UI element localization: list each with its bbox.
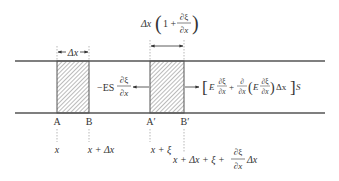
rod-diagram: Δx Δx ( 1 + ∂ξ ∂x ) −ES ∂ξ ∂x [ E ∂ξ ∂x … [0, 0, 339, 181]
svg-text:S: S [296, 82, 301, 92]
displaced-element-hatched [150, 61, 184, 113]
position-A: x [54, 144, 60, 155]
svg-text:∂ξ: ∂ξ [218, 77, 226, 86]
point-Aprime-label: A′ [146, 116, 155, 127]
svg-text:∂x: ∂x [120, 88, 128, 98]
point-Bprime-label: B′ [181, 116, 190, 127]
original-element-hatched [57, 61, 89, 113]
svg-text:∂ξ: ∂ξ [261, 77, 269, 86]
svg-text:+: + [229, 82, 234, 92]
left-force-label: −ES ∂ξ ∂x [97, 75, 131, 98]
svg-text:∂x: ∂x [261, 87, 269, 96]
svg-text:]: ] [290, 78, 296, 97]
point-B-label: B [86, 116, 93, 127]
svg-text:∂ξ: ∂ξ [180, 12, 188, 22]
svg-text:Δx: Δx [140, 18, 152, 29]
svg-text:∂x: ∂x [234, 161, 242, 171]
svg-text:): ) [270, 80, 275, 96]
svg-text:∂ξ: ∂ξ [234, 147, 242, 157]
position-Bprime: x + Δx + ξ + ∂ξ ∂x Δx [172, 147, 258, 171]
position-Aprime: x + ξ [150, 144, 172, 156]
svg-text:E: E [208, 82, 215, 92]
svg-text:(: ( [155, 12, 162, 35]
right-force-label: [ E ∂ξ ∂x + ∂ ∂x ( E ∂ξ ∂x ) Δx ] S [202, 77, 301, 97]
svg-text:∂x: ∂x [238, 87, 246, 96]
svg-text:−ES: −ES [97, 82, 114, 93]
svg-text:∂x: ∂x [218, 87, 226, 96]
svg-text:∂: ∂ [240, 77, 244, 86]
point-A-label: A [53, 116, 61, 127]
original-width-label: Δx [67, 47, 79, 58]
svg-text:Δx: Δx [276, 82, 287, 92]
svg-text:x + Δx + ξ +: x + Δx + ξ + [172, 154, 225, 166]
svg-text:∂x: ∂x [180, 25, 188, 35]
position-B: x + Δx [87, 144, 115, 155]
deformed-width-label: Δx ( 1 + ∂ξ ∂x ) [140, 12, 199, 35]
svg-text:∂ξ: ∂ξ [120, 75, 128, 85]
svg-text:): ) [192, 12, 199, 35]
svg-text:Δx: Δx [246, 154, 258, 165]
svg-text:E: E [252, 82, 259, 92]
svg-text:[: [ [202, 78, 208, 97]
svg-text:1 +: 1 + [163, 18, 177, 29]
